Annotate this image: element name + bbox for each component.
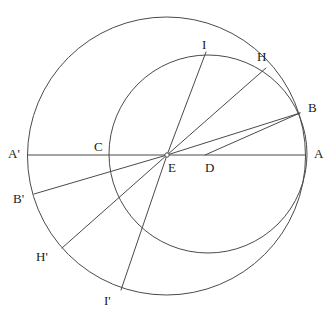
label-I-prime: I' <box>104 294 111 307</box>
label-I: I <box>202 38 206 51</box>
geometry-canvas <box>0 0 332 328</box>
label-B: B <box>308 101 317 114</box>
label-H-prime: H' <box>36 250 48 263</box>
center-point-group <box>165 153 169 157</box>
geometry-figure: I H B A A' C E D B' H' I' <box>0 0 332 328</box>
radius-E-to-I <box>167 52 206 155</box>
label-H: H <box>257 50 266 63</box>
label-B-prime: B' <box>13 192 24 205</box>
radius-E-to-B-prime <box>34 155 167 194</box>
radius-E-to-B <box>167 113 300 155</box>
label-A-prime: A' <box>8 147 20 160</box>
label-A: A <box>314 147 323 160</box>
center-point-E <box>165 153 169 157</box>
segments-group <box>28 52 306 290</box>
label-D: D <box>205 161 214 174</box>
chord-D-to-B <box>205 113 300 155</box>
radius-E-to-H <box>167 68 266 155</box>
label-E: E <box>168 161 176 174</box>
label-C: C <box>94 140 103 153</box>
